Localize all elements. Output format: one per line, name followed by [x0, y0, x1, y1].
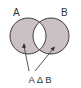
set-label-b: B — [61, 7, 68, 18]
symmetric-difference-label: A Δ B — [28, 74, 51, 85]
set-label-a: A — [13, 7, 20, 18]
venn-diagram: A B A Δ B — [0, 0, 81, 88]
